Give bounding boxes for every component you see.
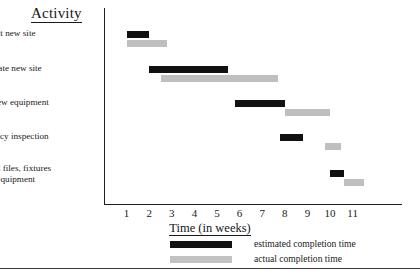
row-label: Select new site	[0, 28, 98, 39]
x-axis-title: Time (in weeks)	[0, 221, 420, 236]
x-axis-line	[104, 204, 402, 205]
gantt-bar-actual	[161, 75, 279, 82]
gantt-bar-estimated	[280, 134, 303, 141]
row-label: Install new equipment	[0, 97, 98, 108]
gantt-bar-estimated	[149, 66, 228, 73]
legend-swatch-actual	[170, 256, 232, 263]
gantt-bar-estimated	[127, 31, 150, 38]
legend-item: estimated completion time	[170, 238, 420, 253]
x-tick-label: 8	[282, 207, 288, 220]
legend-swatch-estimated	[170, 241, 232, 248]
x-tick-label: 11	[347, 207, 358, 220]
activity-heading: Activity	[31, 5, 82, 23]
legend-label: estimated completion time	[254, 237, 356, 251]
row-label: Move old files, fixtures and equipment	[0, 163, 98, 185]
gantt-bar-actual	[344, 179, 364, 186]
chart-legend: estimated completion timeactual completi…	[170, 238, 420, 268]
x-axis-title-text: Time (in weeks)	[169, 221, 250, 236]
x-tick-label: 5	[214, 207, 220, 220]
bottom-divider	[0, 268, 420, 269]
x-tick-label: 10	[325, 207, 336, 220]
x-tick-label: 1	[124, 207, 130, 220]
row-label: Occupancy inspection	[0, 131, 98, 142]
legend-label: actual completion time	[254, 252, 342, 266]
y-axis-line	[104, 8, 105, 204]
row-label: Renovate new site	[0, 63, 98, 74]
gantt-bar-actual	[325, 143, 341, 150]
gantt-bar-actual	[127, 40, 168, 47]
gantt-bar-estimated	[235, 100, 285, 107]
gantt-bar-actual	[285, 109, 330, 116]
x-tick-label: 9	[305, 207, 311, 220]
x-tick-label: 6	[237, 207, 243, 220]
gantt-chart: Activity Select new siteRenovate new sit…	[0, 0, 420, 277]
x-tick-label: 2	[146, 207, 152, 220]
x-tick-label: 4	[192, 207, 198, 220]
gantt-bar-estimated	[330, 170, 344, 177]
x-tick-label: 3	[169, 207, 175, 220]
legend-item: actual completion time	[170, 253, 420, 268]
x-tick-label: 7	[259, 207, 265, 220]
